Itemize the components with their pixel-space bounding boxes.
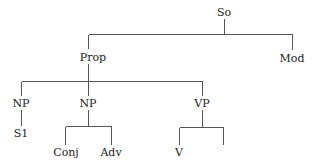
node-mod: Mod (280, 53, 305, 64)
node-adv: Adv (100, 147, 121, 158)
node-vp: VP (194, 98, 209, 109)
node-v: V (175, 147, 183, 158)
node-so: So (217, 7, 231, 18)
node-np-2: NP (79, 98, 96, 109)
tree-edges (0, 0, 314, 166)
node-prop: Prop (80, 52, 106, 63)
node-conj: Conj (53, 147, 79, 158)
node-np-1: NP (12, 98, 29, 109)
syntax-tree-diagram: So Prop Mod NP NP VP S1 Conj Adv V (0, 0, 314, 166)
node-s1: S1 (14, 128, 29, 139)
